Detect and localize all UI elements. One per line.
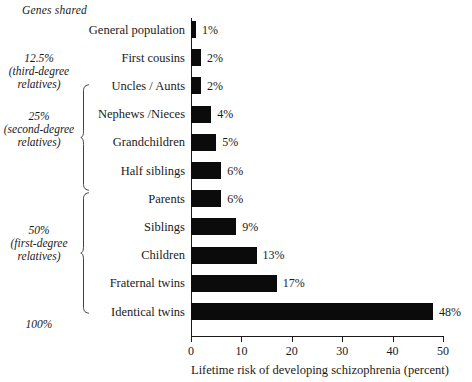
bar-value-label: 6%: [227, 164, 243, 177]
bar: 6%: [191, 162, 221, 179]
bar-row: Identical twins48%: [191, 303, 443, 320]
genes-shared-subtitle-line2: relatives): [0, 136, 78, 149]
bar-row: Uncles / Aunts2%: [191, 77, 443, 94]
bar-category-label: Nephews /Nieces: [98, 107, 185, 121]
bar-category-label: Siblings: [144, 220, 185, 234]
bar-value-label: 13%: [263, 249, 285, 262]
bar-category-label: General population: [89, 23, 185, 37]
bar: 5%: [191, 134, 216, 151]
bar-row: Fraternal twins17%: [191, 275, 443, 292]
bar-value-label: 2%: [207, 79, 223, 92]
bar-value-label: 2%: [207, 51, 223, 64]
x-axis-tick: [393, 336, 394, 342]
bar: 2%: [191, 77, 201, 94]
bar-row: General population1%: [191, 21, 443, 38]
genes-shared-subtitle-line2: relatives): [0, 78, 78, 91]
bar-row: Half siblings6%: [191, 162, 443, 179]
bar: 48%: [191, 303, 433, 320]
genes-shared-group-label: 12.5%(third-degreerelatives): [0, 52, 78, 91]
bar-category-label: Uncles / Aunts: [111, 79, 185, 93]
genes-shared-percent: 50%: [0, 224, 78, 237]
bar-row: Nephews /Nieces4%: [191, 106, 443, 123]
x-axis-tick: [191, 336, 192, 342]
bar: 1%: [191, 21, 196, 38]
bar: 13%: [191, 247, 257, 264]
chart-figure: Genes shared 12.5%(third-degreerelatives…: [0, 0, 472, 382]
bar-value-label: 1%: [202, 23, 218, 36]
genes-shared-subtitle-line1: (first-degree: [0, 237, 78, 250]
genes-shared-group-label: 25%(second-degreerelatives): [0, 110, 78, 149]
bar: 4%: [191, 106, 211, 123]
bar: 6%: [191, 190, 221, 207]
genes-shared-percent: 25%: [0, 110, 78, 123]
x-axis-tick: [292, 336, 293, 342]
genes-shared-subtitle-line1: (third-degree: [0, 65, 78, 78]
x-axis-tick-label: 30: [336, 344, 348, 358]
x-axis-tick-label: 0: [188, 344, 194, 358]
x-axis-tick-label: 50: [437, 344, 449, 358]
x-axis-tick: [241, 336, 242, 342]
genes-shared-column-title: Genes shared: [22, 4, 87, 16]
bar-value-label: 17%: [283, 277, 305, 290]
bar-row: Parents6%: [191, 190, 443, 207]
genes-shared-percent: 100%: [0, 318, 78, 331]
x-axis-tick-label: 20: [286, 344, 298, 358]
bar-value-label: 5%: [222, 136, 238, 149]
x-axis-tick-label: 40: [387, 344, 399, 358]
bar-value-label: 4%: [217, 108, 233, 121]
genes-shared-percent: 12.5%: [0, 52, 78, 65]
bar-row: Grandchildren5%: [191, 134, 443, 151]
bar-row: Siblings9%: [191, 218, 443, 235]
x-axis-tick: [443, 336, 444, 342]
bar-category-label: Children: [141, 248, 185, 262]
plot-area: General population1%First cousins2%Uncle…: [191, 18, 443, 336]
genes-shared-subtitle-line2: relatives): [0, 250, 78, 263]
bar-category-label: Identical twins: [111, 305, 185, 319]
bar: 2%: [191, 49, 201, 66]
x-axis-line: [191, 336, 443, 337]
bar: 17%: [191, 275, 277, 292]
curly-brace-icon: [80, 192, 89, 314]
genes-shared-group-label: 50%(first-degreerelatives): [0, 224, 78, 263]
bar-category-label: Parents: [148, 192, 185, 206]
bar: 9%: [191, 218, 236, 235]
genes-shared-group-label: 100%: [0, 318, 78, 331]
bar-category-label: Half siblings: [121, 164, 185, 178]
bar-value-label: 9%: [242, 220, 258, 233]
x-axis-tick-label: 10: [235, 344, 247, 358]
bar-value-label: 6%: [227, 192, 243, 205]
bar-value-label: 48%: [439, 305, 461, 318]
bar-category-label: Grandchildren: [113, 135, 185, 149]
genes-shared-subtitle-line1: (second-degree: [0, 123, 78, 136]
bar-row: Children13%: [191, 247, 443, 264]
curly-brace-icon: [80, 84, 89, 191]
x-axis-tick: [342, 336, 343, 342]
x-axis-title: Lifetime risk of developing schizophreni…: [191, 363, 443, 378]
bar-row: First cousins2%: [191, 49, 443, 66]
bar-category-label: Fraternal twins: [110, 276, 185, 290]
bar-category-label: First cousins: [121, 51, 185, 65]
